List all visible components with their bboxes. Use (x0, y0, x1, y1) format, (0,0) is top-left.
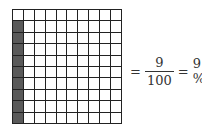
grid-cell (89, 113, 100, 124)
grid-cell (78, 44, 89, 55)
grid-cell (111, 56, 122, 67)
grid-cell (57, 33, 68, 44)
grid-cell (13, 33, 24, 44)
grid-cell (35, 67, 46, 78)
grid-cell (57, 44, 68, 55)
grid-cell (13, 78, 24, 89)
grid-cell (24, 101, 35, 112)
grid-cell (35, 56, 46, 67)
grid-cell (13, 90, 24, 101)
grid-cell (100, 44, 111, 55)
grid-cell (35, 10, 46, 21)
grid-cell (100, 10, 111, 21)
grid-cell (89, 90, 100, 101)
grid-cell (67, 21, 78, 32)
grid-cell (24, 56, 35, 67)
grid-cell (67, 78, 78, 89)
grid-cell (89, 101, 100, 112)
grid-cell (100, 90, 111, 101)
grid-cell (100, 113, 111, 124)
grid-cell (67, 90, 78, 101)
grid-cell (100, 56, 111, 67)
grid-cell (100, 101, 111, 112)
grid-cell (35, 113, 46, 124)
grid-cell (46, 78, 57, 89)
grid-cell (46, 101, 57, 112)
grid-cell (100, 67, 111, 78)
grid-cell (89, 21, 100, 32)
grid-cell (111, 44, 122, 55)
grid-cell (89, 33, 100, 44)
grid-cell (13, 101, 24, 112)
grid-cell (78, 67, 89, 78)
grid-cell (100, 78, 111, 89)
denominator: 100 (145, 71, 174, 87)
grid-cell (89, 78, 100, 89)
grid-cell (24, 78, 35, 89)
grid-cell (35, 44, 46, 55)
grid-cell (67, 33, 78, 44)
grid-cell (100, 33, 111, 44)
grid-cell (57, 113, 68, 124)
grid-cell (13, 67, 24, 78)
grid-cell (67, 56, 78, 67)
grid-cell (35, 21, 46, 32)
hundred-grid (12, 9, 122, 124)
grid-cell (111, 101, 122, 112)
grid-cell (67, 67, 78, 78)
grid-cell (24, 113, 35, 124)
grid-cell (46, 21, 57, 32)
grid-cell (78, 56, 89, 67)
grid-cell (13, 56, 24, 67)
fraction: 9 100 (145, 56, 174, 87)
grid-cell (111, 33, 122, 44)
grid-cell (24, 21, 35, 32)
grid-cell (111, 21, 122, 32)
grid-cell (57, 101, 68, 112)
grid-cell (111, 78, 122, 89)
grid-cell (24, 67, 35, 78)
grid-cell (111, 113, 122, 124)
grid-cell (35, 90, 46, 101)
grid-cell (111, 10, 122, 21)
grid-cell (46, 10, 57, 21)
grid-cell (78, 10, 89, 21)
grid-cell (67, 44, 78, 55)
grid-cell (46, 113, 57, 124)
grid-cell (78, 33, 89, 44)
grid-cell (111, 67, 122, 78)
grid-cell (13, 10, 24, 21)
grid-cell (46, 90, 57, 101)
grid-cell (35, 101, 46, 112)
equation: = 9 100 = 9 % (129, 56, 202, 86)
grid-cell (57, 21, 68, 32)
grid-cell (89, 44, 100, 55)
grid-cell (13, 44, 24, 55)
grid-cell (100, 21, 111, 32)
grid-cell (35, 33, 46, 44)
grid-cell (111, 90, 122, 101)
grid-cell (78, 78, 89, 89)
grid-cell (78, 101, 89, 112)
numerator: 9 (153, 56, 165, 71)
grid-cell (57, 56, 68, 67)
grid-cell (57, 90, 68, 101)
grid-cell (57, 10, 68, 21)
grid-cell (67, 101, 78, 112)
grid-cell (35, 78, 46, 89)
grid-cell (78, 113, 89, 124)
grid-cell (89, 10, 100, 21)
equals-sign: = (130, 64, 141, 79)
grid-cell (24, 90, 35, 101)
grid-cell (89, 56, 100, 67)
grid-cell (89, 67, 100, 78)
grid-cell (57, 78, 68, 89)
grid-cell (46, 44, 57, 55)
grid-cell (24, 33, 35, 44)
grid-cell (13, 113, 24, 124)
grid-cell (78, 21, 89, 32)
grid-cell (57, 67, 68, 78)
percent-result: 9 % (193, 56, 202, 86)
grid-cell (67, 113, 78, 124)
grid-cell (67, 10, 78, 21)
